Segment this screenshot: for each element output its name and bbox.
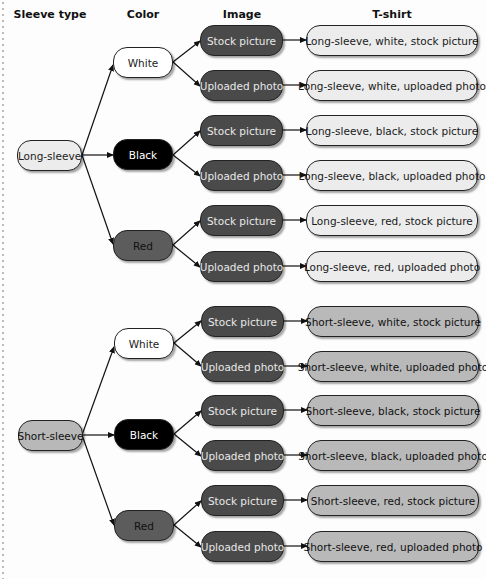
- node-color-red-long: Red: [113, 230, 173, 261]
- node-color-white-short: White: [114, 328, 174, 359]
- node-tshirt: Long-sleeve, red, stock picture: [306, 205, 478, 236]
- node-tshirt: Long-sleeve, red, uploaded photo: [306, 251, 478, 282]
- node-tshirt: Long-sleeve, white, uploaded photo: [306, 70, 478, 101]
- node-image-stock: Stock picture: [201, 306, 284, 337]
- node-tshirt: Short-sleeve, black, stock picture: [307, 395, 479, 426]
- node-image-stock: Stock picture: [201, 395, 284, 426]
- node-color-red-short: Red: [114, 510, 174, 541]
- node-image-uploaded: Uploaded photo: [200, 70, 283, 101]
- node-tshirt: Short-sleeve, white, uploaded photo: [307, 351, 479, 382]
- node-color-white-long: White: [113, 47, 173, 78]
- node-image-uploaded: Uploaded photo: [200, 160, 283, 191]
- node-tshirt: Short-sleeve, white, stock picture: [307, 306, 479, 337]
- node-image-uploaded: Uploaded photo: [201, 531, 284, 562]
- node-tshirt: Short-sleeve, black, uploaded photo: [307, 440, 479, 471]
- node-short-sleeve: Short-sleeve: [18, 420, 83, 451]
- node-color-black-short: Black: [114, 419, 174, 450]
- node-tshirt: Short-sleeve, red, stock picture: [307, 485, 479, 516]
- node-image-uploaded: Uploaded photo: [200, 251, 283, 282]
- node-tshirt: Long-sleeve, white, stock picture: [306, 25, 478, 56]
- node-image-uploaded: Uploaded photo: [201, 351, 284, 382]
- node-tshirt: Long-sleeve, black, stock picture: [306, 115, 478, 146]
- node-image-stock: Stock picture: [201, 485, 284, 516]
- node-color-black-long: Black: [113, 139, 173, 170]
- node-tshirt: Short-sleeve, red, uploaded photo: [307, 531, 479, 562]
- node-image-uploaded: Uploaded photo: [201, 440, 284, 471]
- node-image-stock: Stock picture: [200, 25, 283, 56]
- node-image-stock: Stock picture: [200, 115, 283, 146]
- node-image-stock: Stock picture: [200, 205, 283, 236]
- node-long-sleeve: Long-sleeve: [17, 140, 82, 171]
- node-tshirt: Long-sleeve, black, uploaded photo: [306, 160, 478, 191]
